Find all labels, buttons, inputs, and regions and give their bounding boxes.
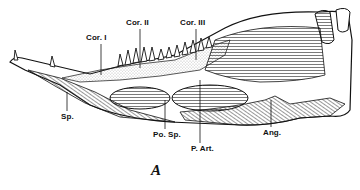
- label-coronoid-3: Cor. III: [180, 19, 205, 27]
- figure-caption: A: [151, 163, 161, 178]
- articular-process: [336, 8, 350, 32]
- label-angular: Ang.: [263, 129, 281, 137]
- label-postsplenial: Po. Sp.: [153, 131, 181, 139]
- jaw-diagram: Cor. I Cor. II Cor. III Sp. Po. Sp. P. A…: [0, 0, 360, 190]
- label-coronoid-1: Cor. I: [86, 34, 107, 42]
- label-prearticular: P. Art.: [191, 145, 214, 153]
- label-splenial: Sp.: [61, 113, 74, 121]
- fenestra-1: [110, 87, 170, 109]
- label-coronoid-2: Cor. II: [126, 19, 149, 27]
- mandible-illustration: [0, 0, 360, 190]
